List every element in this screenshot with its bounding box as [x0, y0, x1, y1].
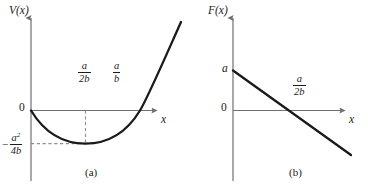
- panel-b-axes: [233, 18, 345, 181]
- minus-sign-icon: −: [2, 139, 8, 150]
- panel-a-guides: [31, 111, 86, 145]
- panel-a-xtick-a-over-b-denominator: b: [113, 73, 120, 84]
- panel-a-xtick-a-over-b-numerator: a: [113, 60, 120, 71]
- panel-b-xtick-a-over-2b: a 2b: [293, 73, 306, 98]
- panel-a-axes: [31, 18, 157, 181]
- panel-b-curve-line: [233, 71, 351, 156]
- panel-a-x-axis-label: x: [161, 114, 166, 126]
- figure-root: V(x) x 0 a 2b a b − a2 4b (a) F(x) x a 0…: [0, 0, 368, 193]
- panel-a-xtick-a-over-2b-denominator: 2b: [78, 73, 91, 84]
- figure-canvas: [0, 0, 368, 193]
- panel-a-caption: (a): [85, 166, 97, 178]
- panel-b-xtick-a-over-2b-numerator: a: [293, 73, 306, 84]
- panel-a-ytick-minus-a2-over-4b: − a2 4b: [2, 132, 22, 157]
- panel-a-ytick-numerator-exponent: 2: [17, 131, 21, 139]
- panel-b-y-intercept-label: a: [222, 63, 228, 75]
- panel-b-xtick-a-over-2b-denominator: 2b: [293, 86, 306, 97]
- panel-b-origin-label: 0: [221, 102, 227, 114]
- panel-a-xtick-a-over-b: a b: [113, 60, 120, 85]
- panel-a-ytick-denominator: 4b: [10, 145, 23, 156]
- panel-b-caption: (b): [289, 166, 302, 178]
- panel-a-ytick-fraction: a2 4b: [10, 132, 23, 157]
- panel-a-y-axis-label: V(x): [9, 5, 29, 17]
- panel-a-xtick-a-over-2b: a 2b: [78, 60, 91, 85]
- panel-a-ytick-numerator: a2: [10, 132, 23, 143]
- panel-a-curve-parabola: [31, 22, 181, 144]
- panel-b-y-axis-label: F(x): [208, 5, 228, 17]
- panel-a-xtick-a-over-2b-numerator: a: [78, 60, 91, 71]
- panel-a-origin-label: 0: [19, 102, 25, 114]
- panel-b-x-axis-label: x: [349, 114, 354, 126]
